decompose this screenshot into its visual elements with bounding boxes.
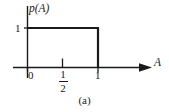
x-axis-arrowhead	[139, 63, 152, 72]
x-tick-label-0: 0	[28, 70, 34, 81]
fraction-numerator: 1	[56, 69, 70, 81]
plot-area: p(A) 1 0 1 2 1 A	[0, 0, 169, 92]
x-tick-label-half: 1 2	[56, 69, 70, 94]
y-axis-label: p(A)	[29, 3, 49, 15]
figure-caption: (a)	[0, 94, 169, 106]
y-tick-label-1: 1	[15, 23, 21, 34]
fraction-denominator: 2	[56, 83, 70, 95]
plot-svg	[0, 0, 169, 92]
x-axis-label: A	[154, 57, 161, 69]
x-tick-label-1: 1	[95, 70, 101, 81]
figure-container: p(A) 1 0 1 2 1 A (a)	[0, 0, 169, 112]
